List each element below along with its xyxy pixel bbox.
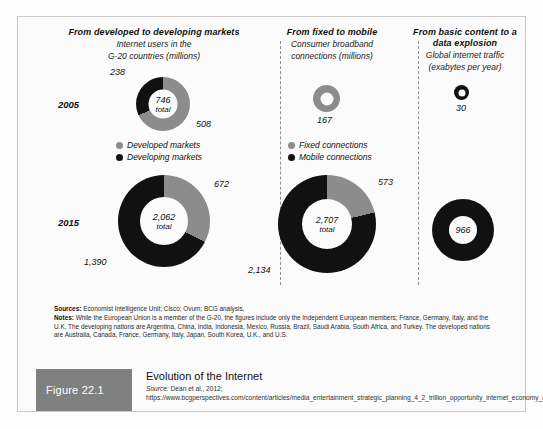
figure-page: From developed to developing markets Int… [0,0,543,429]
row-year-2015: 2015 [58,217,79,228]
donut-2015-internet-traffic: 966 [432,199,494,261]
panel-a-header: From developed to developing markets Int… [54,27,254,61]
notes-sources-label: Sources: [54,305,81,312]
donut-2015-internet-traffic-hole: 966 [449,216,477,244]
legend-item-fixed-connections: Fixed connections [288,139,372,151]
donut-2015-internet-users-total: 2,062 [153,212,176,222]
legend-item-developed-markets: Developed markets [116,139,202,151]
panel-a-subtitle-line1: Internet users in the [54,39,254,50]
donut-2015-broadband-connections: 2,707 total [278,175,376,273]
donut-2015-internet-users-hole: 2,062 total [140,197,188,245]
chart-area: From developed to developing markets Int… [36,27,510,297]
figure-source-label: Source: [146,385,169,392]
panel-fixed-to-mobile: From fixed to mobile Consumer broadband … [272,27,392,297]
panel-developed-to-developing: From developed to developing markets Int… [54,27,254,297]
notes-notes-label: Notes: [54,314,74,321]
donut-2015-internet-traffic-value: 966 [455,225,470,235]
panel-basic-content-to-data-explosion: From basic content to a data explosion G… [410,27,520,297]
legend-swatch-developed-markets [116,142,123,149]
panel-b-title: From fixed to mobile [272,27,392,38]
donut-2005-internet-users-hole: 746 total [149,90,178,119]
notes-notes-line: Notes: While the European Union is a mem… [54,314,496,340]
label-2015-mobile-connections: 2,134 [248,265,271,275]
label-2005-developed-markets: 508 [196,119,211,129]
figure-number-box: Figure 22.1 [36,369,132,411]
donut-2015-broadband-connections-total-label: total [319,225,334,234]
legend-swatch-developing-markets [116,154,123,161]
label-2005-fixed-connections: 167 [317,115,332,125]
figure-title: Evolution of the Internet [146,369,510,383]
label-2005-internet-traffic: 30 [456,103,466,113]
label-2005-developing-markets: 238 [110,67,125,77]
notes-sources-line: Sources: Economist Intelligence Unit; Ci… [54,305,496,314]
donut-2005-internet-traffic-hole [458,89,465,96]
panel-a-subtitle-line2: G-20 countries (millions) [54,51,254,62]
donut-2015-internet-users: 2,062 total [118,175,210,267]
donut-2015-internet-users-total-label: total [156,222,171,231]
row-year-2005: 2005 [58,99,79,110]
donut-2005-broadband-connections-hole [320,92,333,105]
label-2015-fixed-connections: 573 [378,177,393,187]
legend-item-mobile-connections: Mobile connections [288,151,372,163]
panel-c-subtitle-line1: Global internet traffic [410,50,520,61]
notes-sources-text: Economist Intelligence Unit; Cisco; Ovum… [81,305,244,312]
figure-source-text: Dean et al., 2012; https://www.bcgperspe… [146,385,543,401]
panel-c-header: From basic content to a data explosion G… [410,27,520,72]
panel-a-title: From developed to developing markets [54,27,254,38]
donut-2005-broadband-connections [313,85,340,112]
figure-caption: Figure 22.1 Evolution of the Internet So… [36,369,510,413]
legend-label-fixed-connections: Fixed connections [299,139,368,151]
panel-b-subtitle-line2: connections (millions) [272,51,392,62]
panel-c-subtitle-line2: (exabytes per year) [410,62,520,73]
legend-panel-a: Developed markets Developing markets [116,139,202,163]
donut-2005-internet-users-total-label: total [155,105,170,114]
donut-2015-broadband-connections-total: 2,707 [316,215,339,225]
figure-caption-body: Evolution of the Internet Source: Dean e… [146,369,510,402]
donut-2005-internet-traffic [454,85,469,100]
panel-c-title-line2: data explosion [410,38,520,49]
label-2015-developing-markets: 1,390 [84,257,107,267]
legend-panel-b: Fixed connections Mobile connections [288,139,372,163]
panel-b-subtitle-line1: Consumer broadband [272,39,392,50]
notes-notes-text: While the European Union is a member of … [54,314,490,338]
donut-2005-internet-users-total: 746 [155,95,170,105]
label-2015-developed-markets: 672 [214,179,229,189]
legend-swatch-mobile-connections [288,154,295,161]
figure-notes: Sources: Economist Intelligence Unit; Ci… [54,305,496,340]
donut-2015-broadband-connections-hole: 2,707 total [302,199,352,249]
legend-label-developed-markets: Developed markets [127,139,200,151]
panel-b-header: From fixed to mobile Consumer broadband … [272,27,392,61]
figure-frame: From developed to developing markets Int… [17,16,526,412]
legend-label-mobile-connections: Mobile connections [299,151,372,163]
panel-c-title-line1: From basic content to a [410,27,520,38]
figure-number-label: Figure 22.1 [36,384,104,396]
figure-source: Source: Dean et al., 2012; https://www.b… [146,385,510,402]
legend-swatch-fixed-connections [288,142,295,149]
legend-item-developing-markets: Developing markets [116,151,202,163]
legend-label-developing-markets: Developing markets [127,151,202,163]
donut-2005-internet-users: 746 total [136,77,190,131]
